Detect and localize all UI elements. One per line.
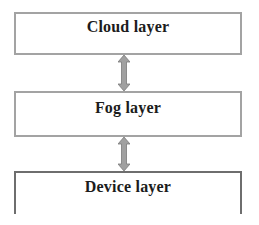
bidirectional-arrow-icon — [118, 55, 130, 91]
cloud-layer-box: Cloud layer — [14, 12, 242, 55]
device-layer-box: Device layer — [14, 171, 242, 214]
bidirectional-arrow-icon — [118, 137, 130, 171]
device-layer-label: Device layer — [16, 178, 240, 196]
fog-layer-box: Fog layer — [14, 91, 242, 137]
fog-layer-label: Fog layer — [16, 99, 240, 117]
cloud-layer-label: Cloud layer — [16, 18, 240, 36]
